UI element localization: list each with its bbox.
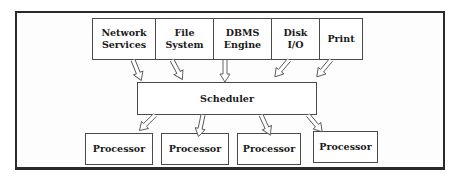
file-system-label-2: System [165, 39, 203, 51]
scheduler-box: Scheduler [137, 82, 317, 115]
processor-box-4: Processor [313, 131, 378, 163]
processor-box-3: Processor [237, 133, 301, 165]
network-services-box: NetworkServices [92, 18, 156, 60]
file-system-label-1: File [165, 27, 203, 39]
dbms-engine-box: DBMSEngine [213, 18, 272, 60]
processor-label: Processor [93, 143, 145, 155]
processor-box-2: Processor [161, 133, 229, 165]
network-services-label-1: Network [101, 27, 146, 39]
processor-label: Processor [169, 143, 221, 155]
processor-label: Processor [319, 141, 371, 153]
processor-label: Processor [243, 143, 295, 155]
print-label: Print [327, 33, 354, 45]
disk-io-box: DiskI/O [271, 18, 320, 60]
dbms-engine-label-1: DBMS [224, 27, 261, 39]
processor-box-1: Processor [85, 133, 153, 165]
disk-io-label-2: I/O [284, 39, 308, 51]
network-services-label-2: Services [101, 39, 146, 51]
disk-io-label-1: Disk [284, 27, 308, 39]
dbms-engine-label-2: Engine [224, 39, 261, 51]
scheduler-label: Scheduler [200, 93, 254, 105]
print-box: Print [319, 18, 363, 60]
file-system-box: FileSystem [155, 18, 214, 60]
